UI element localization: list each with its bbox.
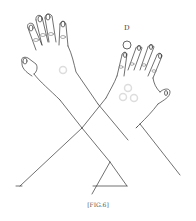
crossed-arms-illustration bbox=[0, 0, 196, 221]
right-hand bbox=[106, 45, 170, 125]
figure-caption: [FIG.6] bbox=[0, 201, 196, 208]
markers bbox=[60, 41, 138, 102]
forearms bbox=[16, 98, 180, 194]
left-hand bbox=[21, 14, 98, 104]
marker-label-d: D bbox=[124, 24, 130, 32]
